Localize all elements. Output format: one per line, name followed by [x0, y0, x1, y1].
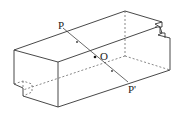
label-o: O	[100, 51, 108, 62]
point-mark-1	[76, 41, 78, 43]
box-diagram	[0, 0, 183, 119]
point-mark-2	[111, 70, 113, 72]
center-point-o	[94, 56, 97, 59]
axis-line-pp	[63, 28, 128, 82]
label-p: P	[58, 20, 64, 31]
hidden-bottom-edge	[125, 56, 170, 70]
front-face-outline	[14, 50, 58, 107]
hidden-bottom-back	[23, 56, 125, 90]
label-p-prime: P'	[128, 84, 136, 95]
top-face-edges	[14, 11, 170, 107]
